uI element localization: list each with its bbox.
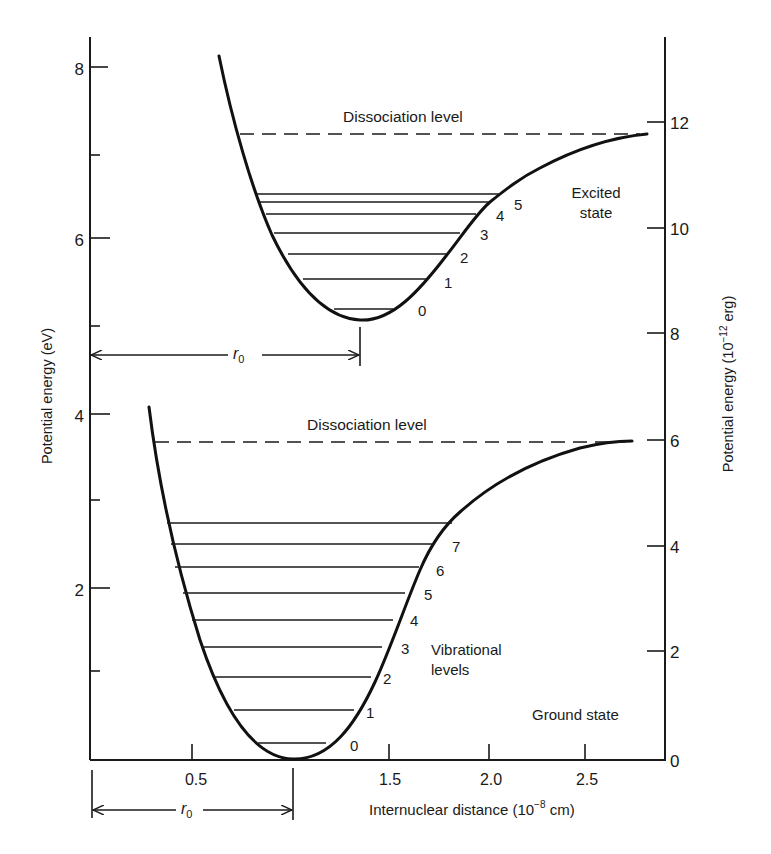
left-tick-4: 4 — [75, 407, 84, 426]
right-axis: 12 10 8 6 4 2 0 Potential energy (10−12 … — [647, 37, 736, 771]
ground-r0-label: r0 — [181, 800, 192, 820]
excited-level-4: 4 — [496, 207, 504, 224]
right-tick-2: 2 — [670, 643, 679, 662]
left-axis-label: Potential energy (eV) — [39, 328, 55, 464]
excited-level-3: 3 — [480, 226, 488, 243]
ground-level-3: 3 — [401, 640, 409, 657]
ground-level-1: 1 — [366, 704, 374, 721]
right-tick-10: 10 — [670, 220, 689, 239]
ground-state-label: Ground state — [532, 706, 619, 723]
excited-level-2: 2 — [460, 249, 468, 266]
excited-state-curve-group: Dissociation level 0 1 2 3 4 5 Excitedst… — [91, 56, 647, 366]
ground-level-2: 2 — [383, 670, 391, 687]
left-tick-6: 6 — [75, 231, 84, 250]
right-tick-12: 12 — [670, 114, 689, 133]
ground-level-0: 0 — [350, 737, 358, 754]
excited-r0-dimension: r0 — [91, 327, 360, 366]
right-tick-8: 8 — [670, 325, 679, 344]
excited-dissociation-label: Dissociation level — [343, 108, 463, 125]
x-tick-2.5: 2.5 — [576, 771, 598, 788]
left-tick-8: 8 — [75, 60, 84, 79]
excited-level-1: 1 — [444, 274, 452, 291]
x-axis: 0.5 1.5 2.0 2.5 Internuclear distance (1… — [90, 744, 666, 818]
ground-state-curve-group: Dissociation level 0 1 2 3 4 5 6 7 Vibra… — [92, 407, 632, 820]
right-axis-label: Potential energy (10−12 erg) — [718, 296, 736, 473]
ground-dissociation-label: Dissociation level — [307, 416, 427, 433]
ground-level-7: 7 — [452, 538, 460, 555]
left-axis: 8 6 4 2 Potential energy (eV) — [39, 37, 110, 760]
vibrational-levels-label: Vibrationallevels — [431, 641, 502, 678]
excited-state-label: Excitedstate — [571, 184, 620, 221]
ground-vibrational-levels — [167, 523, 452, 743]
ground-level-4: 4 — [410, 612, 418, 629]
right-tick-4: 4 — [670, 538, 679, 557]
excited-r0-label: r0 — [233, 345, 244, 365]
x-tick-1.5: 1.5 — [379, 771, 401, 788]
x-axis-label: Internuclear distance (10−8 cm) — [369, 799, 575, 818]
right-tick-6: 6 — [670, 432, 679, 451]
ground-level-6: 6 — [436, 562, 444, 579]
ground-level-5: 5 — [424, 586, 432, 603]
excited-level-0: 0 — [418, 302, 426, 319]
x-tick-2.0: 2.0 — [480, 771, 502, 788]
right-tick-0: 0 — [670, 752, 679, 771]
excited-level-5: 5 — [514, 196, 522, 213]
left-tick-2: 2 — [75, 581, 84, 600]
x-tick-0.5: 0.5 — [185, 771, 207, 788]
potential-energy-diagram: 8 6 4 2 Potential energy (eV) 12 10 8 6 … — [0, 0, 771, 854]
